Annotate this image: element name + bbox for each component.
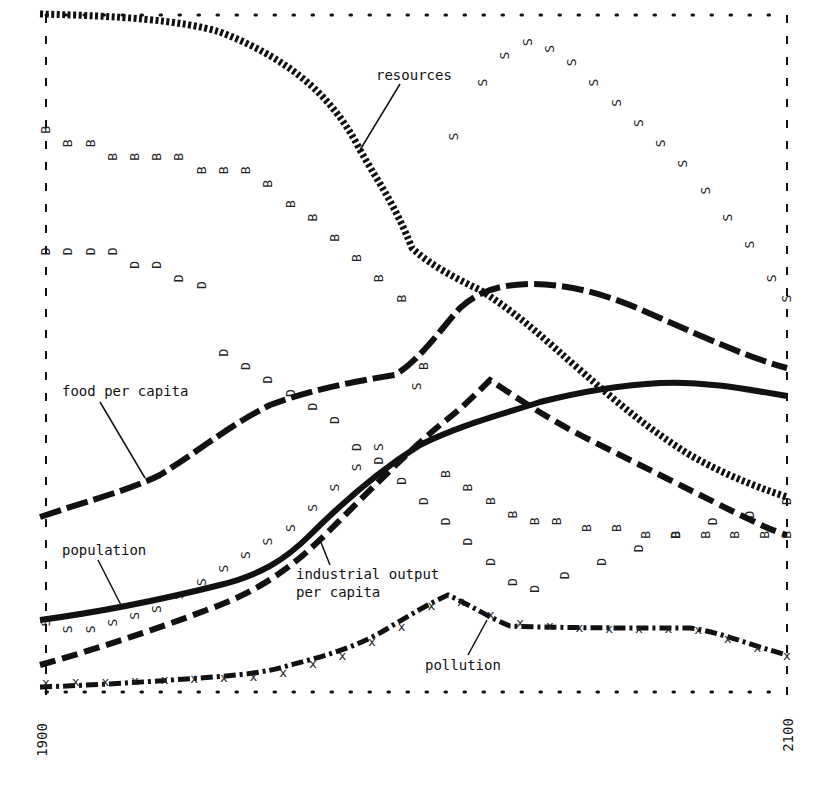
marker-x: x (664, 621, 672, 636)
marker-b: B (60, 139, 75, 147)
marker-b: B (105, 153, 120, 161)
marker-s: S (698, 187, 713, 195)
marker-d: D (327, 416, 342, 424)
marker-d: D (349, 443, 364, 451)
marker-s: S (216, 565, 231, 573)
marker-x: x (724, 631, 732, 646)
marker-s: S (475, 79, 490, 87)
marker-x: x (783, 648, 791, 663)
marker-d: D (149, 261, 164, 269)
marker-d: D (260, 375, 275, 383)
marker-d: D (127, 261, 142, 269)
marker-s: S (327, 484, 342, 492)
marker-b: B (609, 524, 624, 532)
food-per-capita-curve (40, 284, 787, 517)
services-markers: SSSSSSSSSSSSSSSSSSSSSSSSSSSSSSSSS (38, 38, 794, 633)
marker-x: x (605, 621, 613, 636)
marker-s: S (83, 625, 98, 633)
marker-d: D (631, 544, 646, 552)
marker-b: B (238, 166, 253, 174)
resources-label: resources (376, 67, 452, 83)
marker-b: B (698, 531, 713, 539)
marker-b: B (505, 510, 520, 518)
marker-s: S (105, 619, 120, 627)
marker-b: B (483, 497, 498, 505)
death-rate-markers: DDDDDDDDDDDDDDDDDDDDDDDDDDDDDD (38, 247, 794, 593)
marker-s: S (60, 625, 75, 633)
marker-d: D (394, 477, 409, 485)
marker-s: S (631, 119, 646, 127)
marker-s: S (446, 133, 461, 141)
marker-s: S (260, 538, 275, 546)
marker-b: B (349, 254, 364, 262)
marker-x: x (516, 615, 524, 630)
marker-d: D (105, 247, 120, 255)
marker-s: S (283, 524, 298, 532)
marker-b: B (38, 126, 53, 134)
marker-x: x (546, 618, 554, 633)
marker-d: D (527, 585, 542, 593)
marker-b: B (438, 470, 453, 478)
marker-x: x (694, 622, 702, 637)
marker-b: B (171, 153, 186, 161)
marker-x: x (576, 620, 584, 635)
marker-s: S (653, 139, 668, 147)
food-per-capita-leader-line (100, 402, 145, 478)
marker-s: S (586, 79, 601, 87)
marker-b: B (394, 294, 409, 302)
year-label-1900: 1900 (34, 723, 50, 757)
marker-d: D (38, 247, 53, 255)
marker-s: S (238, 551, 253, 559)
marker-d: D (416, 497, 431, 505)
marker-x: x (309, 656, 317, 671)
marker-x: x (250, 669, 258, 684)
marker-s: S (497, 52, 512, 60)
marker-s: S (675, 160, 690, 168)
marker-x: x (161, 672, 169, 687)
marker-s: S (305, 504, 320, 512)
population-label: population (62, 542, 146, 558)
marker-s: S (779, 295, 794, 303)
pollution-label: pollution (425, 657, 501, 673)
marker-b: B (579, 524, 594, 532)
pollution-leader-line (468, 620, 487, 655)
marker-b: B (549, 517, 564, 525)
marker-d: D (194, 281, 209, 289)
world-model-chart: BBBBBBBBBBBBBBBBBBBBBBBBBBBBBBBB DDDDDDD… (0, 0, 829, 787)
marker-x: x (338, 648, 346, 663)
food-per-capita-label: food per capita (62, 383, 188, 399)
marker-d: D (60, 247, 75, 255)
marker-d: D (83, 247, 98, 255)
marker-s: S (764, 274, 779, 282)
marker-d: D (505, 578, 520, 586)
marker-b: B (305, 213, 320, 221)
marker-b: B (149, 153, 164, 161)
marker-x: x (368, 634, 376, 649)
industrial-output-label-line2: per capita (296, 584, 380, 600)
marker-b: B (260, 180, 275, 188)
industrial-output-leader-line (320, 540, 330, 565)
resources-curve (40, 14, 787, 497)
population-leader-line (98, 560, 122, 607)
marker-d: D (305, 402, 320, 410)
marker-x: x (398, 619, 406, 634)
marker-s: S (149, 605, 164, 613)
resources-leader-line (360, 84, 400, 150)
marker-d: D (171, 274, 186, 282)
marker-b: B (327, 234, 342, 242)
marker-d: D (557, 571, 572, 579)
marker-d: D (238, 362, 253, 370)
marker-d: D (483, 558, 498, 566)
marker-s: S (194, 578, 209, 586)
industrial-output-label-line1: industrial output (296, 566, 439, 582)
marker-b: B (460, 483, 475, 491)
marker-x: x (753, 640, 761, 655)
marker-s: S (542, 45, 557, 53)
population-curve (40, 383, 787, 620)
industrial-output-curve (40, 380, 787, 665)
marker-b: B (83, 139, 98, 147)
marker-x: x (190, 671, 198, 686)
marker-x: x (131, 673, 139, 688)
marker-s: S (742, 241, 757, 249)
marker-b: B (416, 362, 431, 370)
